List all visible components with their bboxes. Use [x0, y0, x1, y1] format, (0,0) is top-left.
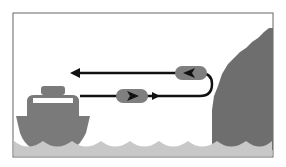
- outbound-pill: [116, 89, 148, 103]
- return-pill: [175, 66, 207, 80]
- boat-hull: [16, 116, 90, 148]
- boat-cabin-top: [41, 86, 65, 95]
- boat-cliff-diagram: [0, 0, 286, 167]
- boat-window: [33, 98, 73, 103]
